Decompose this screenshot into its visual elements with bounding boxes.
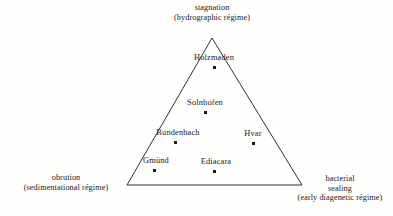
data-point-marker (213, 66, 216, 69)
data-point-label: Solnhofen (187, 99, 223, 107)
data-point-marker (204, 111, 207, 114)
data-point-marker (213, 170, 216, 173)
data-point-label: Gmünd (143, 157, 169, 165)
data-point-label: Hvar (244, 130, 261, 138)
data-point-label: Bundenbach (156, 129, 199, 137)
vertex-label-stagnation-line-1: stagnation (131, 3, 293, 13)
vertex-label-bacterial-sealing-line-3: (early diagenetic régime) (287, 193, 393, 203)
vertex-label-stagnation: stagnation (hydrographic régime) (131, 3, 293, 22)
vertex-label-obrution: obrution (sedimentational régime) (2, 173, 130, 192)
vertex-label-bacterial-sealing-line-2: sealing (287, 184, 393, 194)
data-point-marker (174, 141, 177, 144)
data-point-label: Ediacara (201, 158, 232, 166)
data-point-marker (153, 169, 156, 172)
vertex-label-bacterial-sealing: bacterial sealing (early diagenetic régi… (287, 174, 393, 203)
data-point-marker (252, 142, 255, 145)
ternary-diagram-figure: stagnation (hydrographic régime) obrutio… (0, 0, 393, 216)
vertex-label-bacterial-sealing-line-1: bacterial (287, 174, 393, 184)
vertex-label-obrution-line-1: obrution (2, 173, 130, 183)
data-point-label: Holzmaden (194, 54, 234, 62)
vertex-label-stagnation-line-2: (hydrographic régime) (131, 13, 293, 23)
vertex-label-obrution-line-2: (sedimentational régime) (2, 183, 130, 193)
